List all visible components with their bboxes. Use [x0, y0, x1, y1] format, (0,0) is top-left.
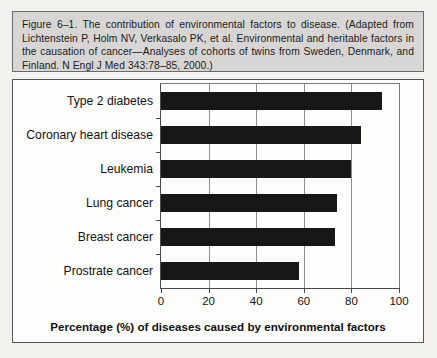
- y-axis-tick: [156, 186, 161, 187]
- x-axis-title: Percentage (%) of diseases caused by env…: [13, 320, 423, 333]
- x-axis-tick-label: 20: [202, 295, 215, 307]
- x-axis-tick-label: 40: [250, 295, 263, 307]
- figure-caption-box: Figure 6–1. The contribution of environm…: [12, 11, 424, 72]
- bar: [161, 262, 299, 280]
- x-axis-tick: [304, 288, 305, 293]
- category-label: Lung cancer: [86, 196, 153, 210]
- category-label: Prostrate cancer: [64, 264, 153, 278]
- bar: [161, 126, 361, 144]
- x-gridline: [209, 84, 210, 288]
- x-axis-tick-label: 80: [345, 295, 358, 307]
- category-label: Breast cancer: [78, 230, 153, 244]
- x-axis-tick: [209, 288, 210, 293]
- bar: [161, 92, 382, 110]
- y-axis-tick: [156, 254, 161, 255]
- y-axis-tick: [156, 220, 161, 221]
- bar: [161, 160, 351, 178]
- x-gridline: [256, 84, 257, 288]
- plot-area: 020406080100Type 2 diabetesCoronary hear…: [160, 83, 400, 289]
- chart-panel: 020406080100Type 2 diabetesCoronary hear…: [12, 79, 424, 343]
- category-label: Type 2 diabetes: [67, 94, 153, 108]
- bar: [161, 228, 335, 246]
- category-label: Leukemia: [100, 162, 153, 176]
- x-axis-tick: [161, 288, 162, 293]
- bar: [161, 194, 337, 212]
- x-axis-tick: [399, 288, 400, 293]
- x-axis-tick: [256, 288, 257, 293]
- x-gridline: [304, 84, 305, 288]
- figure-container: Figure 6–1. The contribution of environm…: [0, 0, 437, 358]
- x-axis-tick-label: 60: [297, 295, 310, 307]
- x-axis-tick-label: 100: [389, 295, 408, 307]
- x-axis-tick-label: 0: [158, 295, 164, 307]
- x-gridline: [351, 84, 352, 288]
- figure-caption-text: Figure 6–1. The contribution of environm…: [22, 18, 414, 72]
- y-axis-tick: [156, 152, 161, 153]
- y-axis-tick: [156, 118, 161, 119]
- category-label: Coronary heart disease: [26, 128, 153, 142]
- x-axis-tick: [351, 288, 352, 293]
